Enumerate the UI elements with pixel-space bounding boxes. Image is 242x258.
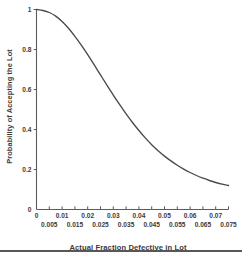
x-tick-label: 0.065 xyxy=(195,221,212,228)
y-tick-label: 0 xyxy=(28,206,32,213)
x-tick-label: 0.04 xyxy=(132,212,145,219)
x-tick-label: 0.05 xyxy=(158,212,171,219)
bottom-divider xyxy=(0,250,242,252)
oc-curve-path xyxy=(37,10,229,186)
oc-curve-figure: 00.20.40.60.81 00.010.020.030.040.050.06… xyxy=(0,0,242,258)
x-tick-label: 0.02 xyxy=(81,212,94,219)
x-tick-label: 0.055 xyxy=(169,221,186,228)
chart-canvas: 00.20.40.60.81 00.010.020.030.040.050.06… xyxy=(0,0,242,258)
y-tick-label: 0.4 xyxy=(22,126,31,133)
data-series-line xyxy=(37,10,229,186)
x-tick-label: 0.045 xyxy=(143,221,160,228)
x-tick-labels: 00.010.020.030.040.050.060.070.0050.0150… xyxy=(35,212,237,228)
x-tick-label: 0 xyxy=(35,212,39,219)
y-axis xyxy=(34,10,37,210)
x-axis xyxy=(37,206,229,209)
x-tick-label: 0.075 xyxy=(220,221,237,228)
x-tick-label: 0.01 xyxy=(56,212,69,219)
y-tick-label: 1 xyxy=(28,6,32,13)
x-tick-label: 0.005 xyxy=(41,221,58,228)
x-tick-label: 0.035 xyxy=(118,221,135,228)
x-tick-label: 0.06 xyxy=(184,212,197,219)
y-tick-label: 0.2 xyxy=(22,166,31,173)
y-tick-label: 0.8 xyxy=(22,46,31,53)
y-tick-labels: 00.20.40.60.81 xyxy=(22,6,32,213)
x-tick-label: 0.015 xyxy=(67,221,84,228)
x-tick-label: 0.025 xyxy=(92,221,109,228)
x-tick-label: 0.07 xyxy=(209,212,222,219)
x-tick-label: 0.03 xyxy=(107,212,120,219)
y-tick-label: 0.6 xyxy=(22,86,31,93)
